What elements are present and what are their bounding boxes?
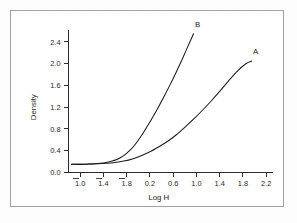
y-tick-label: 0.8 [50, 125, 60, 134]
curve-label-a: A [253, 47, 259, 56]
y-tick-label: 0.0 [50, 168, 60, 177]
x-axis-ticks [80, 173, 266, 178]
y-tick-label: 2.4 [50, 38, 60, 47]
y-axis-title: Density [30, 94, 39, 120]
figure-root: 0.00.40.81.21.62.02.4 1.01.41.80.20.61.0… [0, 0, 297, 223]
x-tick-label: 1.8 [122, 179, 132, 188]
x-axis-title: Log H [148, 193, 169, 202]
y-tick-label: 1.2 [50, 103, 60, 112]
y-tick-label: 1.6 [50, 81, 60, 90]
data-curves [71, 34, 251, 165]
x-tick-label: 1.4 [98, 179, 108, 188]
curve-b [71, 34, 193, 165]
y-axis-tick-labels: 0.00.40.81.21.62.02.4 [50, 38, 60, 178]
x-tick-label: 0.2 [145, 179, 155, 188]
y-axis-ticks [64, 42, 69, 173]
characteristic-curve-chart: 0.00.40.81.21.62.02.4 1.01.41.80.20.61.0… [0, 0, 297, 223]
axes-group [69, 30, 274, 173]
curve-annotations: AB [195, 20, 259, 56]
x-tick-label: 1.8 [238, 179, 248, 188]
x-tick-label: 1.0 [191, 179, 201, 188]
x-tick-label: 1.4 [215, 179, 225, 188]
curve-label-b: B [195, 20, 200, 29]
x-axis-tick-labels: 1.01.41.80.20.61.01.41.82.2 [73, 179, 272, 188]
x-tick-label: 0.6 [168, 179, 178, 188]
x-tick-label: 2.2 [261, 179, 271, 188]
x-tick-label: 1.0 [75, 179, 85, 188]
curve-a [71, 61, 251, 164]
y-tick-label: 0.4 [50, 146, 60, 155]
y-tick-label: 2.0 [50, 59, 60, 68]
